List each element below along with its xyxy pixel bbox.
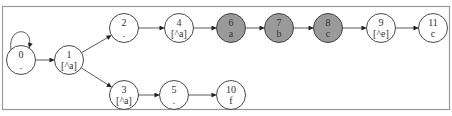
state-label: . xyxy=(20,60,23,71)
state-node-6: 6a xyxy=(217,14,246,43)
state-node-11: 11c xyxy=(419,14,448,43)
state-id: 0 xyxy=(19,49,24,60)
state-label: . xyxy=(173,95,176,106)
state-node-0: 0. xyxy=(7,46,36,75)
state-node-3: 3[^a] xyxy=(110,81,139,110)
state-node-10: 10f xyxy=(217,81,246,110)
edge-1-to-2 xyxy=(82,35,112,52)
state-label: [^a] xyxy=(116,95,132,106)
state-node-5: 5. xyxy=(160,81,189,110)
state-id: 8 xyxy=(326,17,331,28)
nodes-layer: 0.1[^a]2.4[^a]6a7b8c9[^e]11c3[^a]5.10f xyxy=(7,14,448,110)
state-id: 5 xyxy=(172,84,177,95)
state-label: [^a] xyxy=(61,60,77,71)
state-node-1: 1[^a] xyxy=(55,46,84,75)
state-node-7: 7b xyxy=(265,14,294,43)
state-id: 3 xyxy=(122,84,127,95)
state-id: 11 xyxy=(428,17,438,28)
state-label: c xyxy=(431,28,436,39)
state-label: c xyxy=(326,28,331,39)
state-label: b xyxy=(277,28,282,39)
state-id: 6 xyxy=(229,17,234,28)
automaton-diagram: 0.1[^a]2.4[^a]6a7b8c9[^e]11c3[^a]5.10f xyxy=(0,0,452,116)
state-node-4: 4[^a] xyxy=(165,14,194,43)
state-id: 9 xyxy=(379,17,384,28)
state-label: [^a] xyxy=(171,28,187,39)
state-id: 7 xyxy=(277,17,282,28)
state-id: 1 xyxy=(67,49,72,60)
state-node-2: 2. xyxy=(110,14,139,43)
state-id: 4 xyxy=(177,17,182,28)
state-label: . xyxy=(123,28,126,39)
edge-1-to-3 xyxy=(81,68,112,87)
state-id: 2 xyxy=(122,17,127,28)
state-node-8: 8c xyxy=(314,14,343,43)
state-label: [^e] xyxy=(373,28,389,39)
state-id: 10 xyxy=(226,84,236,95)
state-node-9: 9[^e] xyxy=(367,14,396,43)
state-label: a xyxy=(229,28,234,39)
